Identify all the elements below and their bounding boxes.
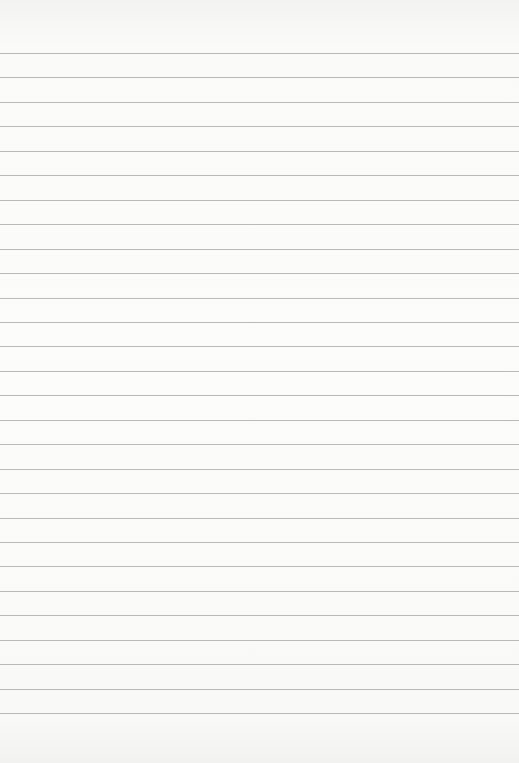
ruled-line	[0, 273, 519, 274]
ruled-line	[0, 518, 519, 519]
ruled-line	[0, 200, 519, 201]
ruled-line	[0, 395, 519, 396]
ruled-line	[0, 591, 519, 592]
ruled-line	[0, 53, 519, 54]
ruled-line	[0, 151, 519, 152]
ruled-line	[0, 566, 519, 567]
ruled-line	[0, 298, 519, 299]
ruled-line	[0, 371, 519, 372]
ruled-line	[0, 469, 519, 470]
ruled-line	[0, 664, 519, 665]
ruled-line	[0, 224, 519, 225]
ruled-line	[0, 542, 519, 543]
ruled-line	[0, 689, 519, 690]
ruled-line	[0, 102, 519, 103]
ruled-line	[0, 175, 519, 176]
ruled-line	[0, 126, 519, 127]
lined-paper	[0, 0, 519, 763]
ruled-line	[0, 322, 519, 323]
ruled-line	[0, 615, 519, 616]
ruled-line	[0, 713, 519, 714]
ruled-line	[0, 249, 519, 250]
ruled-line	[0, 493, 519, 494]
ruled-line	[0, 420, 519, 421]
ruled-line	[0, 444, 519, 445]
ruled-line	[0, 77, 519, 78]
ruled-line	[0, 346, 519, 347]
ruled-line	[0, 640, 519, 641]
